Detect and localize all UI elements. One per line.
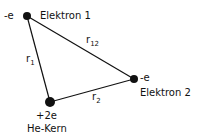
electron-1-charge: -e <box>4 10 14 21</box>
electron-2-label: Elektron 2 <box>140 87 191 98</box>
edge-r1-label-sub: 1 <box>30 59 34 67</box>
electron-2-dot <box>130 75 138 83</box>
edge-r12-label-sub: 12 <box>90 40 99 48</box>
nucleus-charge: +2e <box>36 110 57 121</box>
edge-r2-label: r2 <box>92 91 101 105</box>
edge-r1-label: r1 <box>26 53 35 67</box>
edge-r2-label-sub: 2 <box>96 97 100 105</box>
electron-1-dot <box>23 12 31 20</box>
edge-r12-label: r12 <box>86 34 99 48</box>
electron-2-charge: -e <box>140 72 150 83</box>
edge-r12-line <box>27 16 134 79</box>
helium-atom-diagram: -e Elektron 1 -e Elektron 2 +2e He-Kern … <box>0 0 204 139</box>
nucleus-dot <box>45 97 55 107</box>
electron-1-label: Elektron 1 <box>40 10 91 21</box>
nucleus-label: He-Kern <box>27 123 67 134</box>
